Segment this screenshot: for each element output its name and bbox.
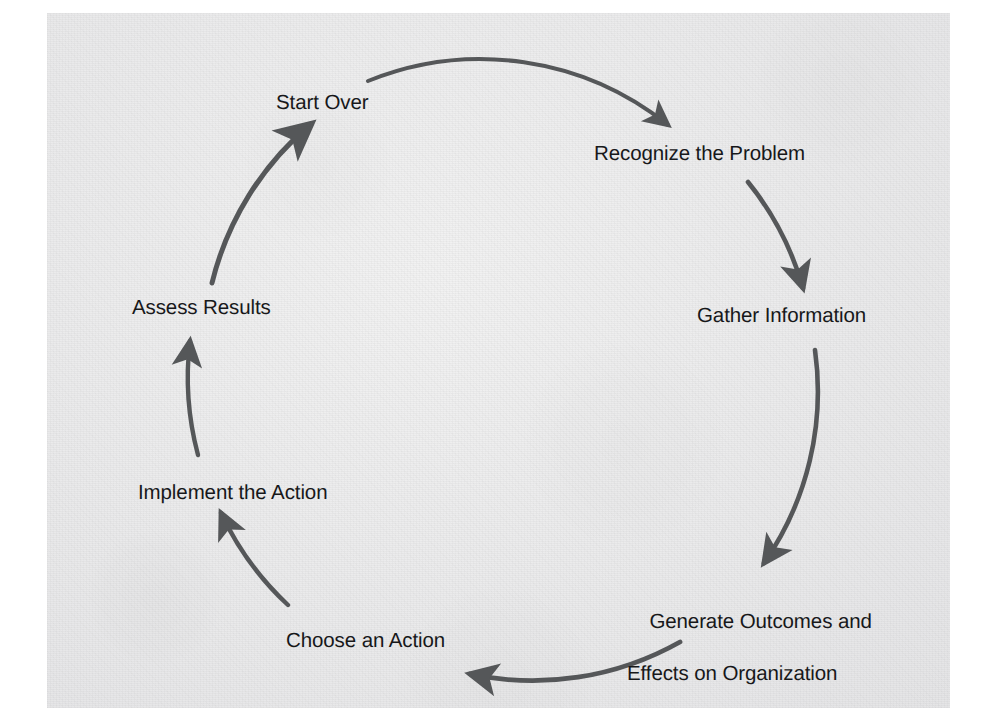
arrow-recognize-to-gather — [748, 182, 803, 288]
arrow-start-to-recognize — [368, 59, 668, 125]
node-label-choose-an-action: Choose an Action — [286, 628, 445, 654]
arrow-choose-to-implement — [221, 513, 288, 605]
arrow-assess-to-start — [212, 124, 311, 283]
node-label-assess-results: Assess Results — [132, 295, 271, 321]
node-label-generate-line-1: Generate Outcomes and — [649, 610, 871, 633]
node-label-gather-information: Gather Information — [697, 303, 866, 329]
figure-root: Start Over Recognize the Problem Gather … — [0, 0, 994, 708]
node-label-implement-the-action: Implement the Action — [138, 480, 327, 506]
node-label-generate-outcomes: Generate Outcomes and Effects on Organiz… — [627, 583, 872, 708]
arrow-implement-to-assess — [188, 341, 198, 455]
arrow-gather-to-generate — [764, 350, 818, 563]
node-label-recognize-the-problem: Recognize the Problem — [594, 141, 805, 167]
node-label-start-over: Start Over — [276, 90, 368, 116]
node-label-generate-line-2: Effects on Organization — [627, 661, 872, 687]
